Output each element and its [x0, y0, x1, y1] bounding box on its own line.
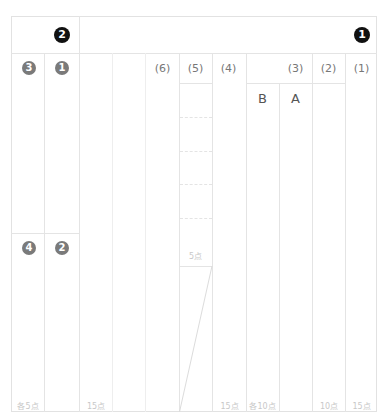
col-5-diagonal-strike [0, 0, 383, 420]
col-3-points: 各10点 [246, 400, 279, 411]
col-6-points: 15点 [80, 400, 112, 411]
col-2-points: 10点 [313, 400, 345, 411]
col-1-points: 15点 [346, 400, 377, 411]
col-4-points: 15点 [213, 400, 246, 411]
